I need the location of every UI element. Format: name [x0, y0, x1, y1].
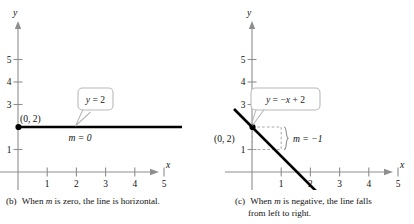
- caption-b-label: (b): [6, 196, 17, 206]
- caption-b-pre: When: [22, 196, 44, 206]
- caption-c-variable: m: [274, 196, 281, 206]
- callout-equation-c: y = −x + 2: [251, 88, 320, 126]
- x-tick-label-5: 5: [396, 179, 401, 189]
- y-axis-label: y: [12, 7, 18, 18]
- y-tick-label-4: 4: [7, 77, 12, 87]
- y-tick-label-1: 1: [7, 145, 12, 155]
- plot-area-c: 1 2 3 4 5 5 4 3 1 x y (0, 2): [207, 0, 414, 190]
- x-tick-label-1: 1: [45, 179, 50, 189]
- callout-equation-b: y = 2: [75, 88, 113, 126]
- slope-label: m = −1: [293, 133, 322, 144]
- x-axis-label: x: [165, 159, 171, 170]
- plot-area-b: 1 2 3 4 5 5 4 3 1 x y (0, 2) m = 0: [0, 0, 207, 190]
- x-tick-label-3: 3: [103, 179, 108, 189]
- y-tick-label-3: 3: [7, 100, 12, 110]
- caption-b-post: is zero, the line is horizontal.: [55, 196, 160, 206]
- intercept-point-label: (0, 2): [20, 113, 41, 125]
- caption-c-post: is negative, the line falls: [283, 196, 372, 206]
- slope-figure-row: 1 2 3 4 5 5 4 3 1 x y (0, 2) m = 0: [0, 0, 414, 224]
- intercept-point-label: (0, 2): [214, 133, 235, 145]
- caption-b-variable: m: [46, 196, 53, 206]
- caption-b: (b) When m is zero, the line is horizont…: [0, 196, 213, 208]
- caption-c: (c) When m is negative, the line falls f…: [207, 196, 414, 219]
- y-tick-label-5: 5: [241, 55, 246, 65]
- x-tick-label-4: 4: [132, 179, 137, 189]
- x-axis-label: x: [399, 159, 405, 170]
- x-tick-label-1: 1: [279, 179, 284, 189]
- y-axis-label: y: [246, 7, 252, 18]
- caption-c-pre: When: [250, 196, 272, 206]
- intercept-point-dot: [15, 124, 21, 130]
- y-tick-label-4: 4: [241, 77, 246, 87]
- panel-b-horizontal-line: 1 2 3 4 5 5 4 3 1 x y (0, 2) m = 0: [0, 0, 207, 224]
- callout-equation-c-text: y = −x + 2: [265, 94, 305, 105]
- x-tick-label-5: 5: [162, 179, 167, 189]
- caption-c-line2: from left to right.: [235, 208, 414, 220]
- callout-equation-b-text: y = 2: [85, 94, 105, 105]
- panel-c-negative-slope-line: 1 2 3 4 5 5 4 3 1 x y (0, 2): [207, 0, 414, 224]
- caption-c-label: (c): [235, 196, 245, 206]
- y-tick-label-1: 1: [241, 145, 246, 155]
- y-tick-label-3: 3: [241, 100, 246, 110]
- slope-label: m = 0: [69, 132, 92, 143]
- x-tick-label-2: 2: [74, 179, 79, 189]
- y-tick-label-5: 5: [7, 55, 12, 65]
- x-tick-label-4: 4: [366, 179, 371, 189]
- x-tick-label-3: 3: [337, 179, 342, 189]
- rise-brace: [284, 127, 289, 150]
